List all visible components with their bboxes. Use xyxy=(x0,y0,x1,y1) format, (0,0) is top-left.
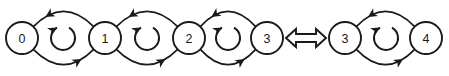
arrowhead-right-chain-3-to-4 xyxy=(393,55,406,68)
self-loop-arrowhead-right-chain-0 xyxy=(370,24,382,36)
node-label-3: 3 xyxy=(342,32,349,46)
node-label-0: 0 xyxy=(19,32,26,46)
node-right-chain-3[interactable]: 3 xyxy=(329,22,361,54)
arrowhead-left-chain-0-to-1 xyxy=(72,55,84,68)
edge-left-chain-1-to-0-top xyxy=(33,11,93,26)
arrowhead-left-chain-3-to-2 xyxy=(209,8,222,21)
node-label-1: 1 xyxy=(102,32,109,46)
equivalence-double-arrow xyxy=(286,29,326,47)
diagram-canvas: 012334 xyxy=(0,0,449,76)
arrowhead-left-chain-1-to-2 xyxy=(155,55,167,68)
arrowhead-right-chain-4-to-3 xyxy=(366,8,379,21)
node-label-3: 3 xyxy=(264,32,271,46)
state-transition-diagram: 012334 xyxy=(0,0,449,76)
node-right-chain-4[interactable]: 4 xyxy=(410,22,442,54)
edge-left-chain-2-to-1-top xyxy=(116,11,177,26)
arrowhead-left-chain-2-to-3 xyxy=(235,55,248,68)
edge-left-chain-1-to-2-bottom xyxy=(116,49,177,64)
edge-left-chain-0-to-1-bottom xyxy=(33,49,93,64)
self-loop-arrowhead-left-chain-2 xyxy=(212,24,224,36)
edge-right-chain-3-to-4-bottom xyxy=(356,49,414,64)
edge-right-chain-4-to-3-top xyxy=(356,11,414,26)
node-left-chain-0[interactable]: 0 xyxy=(6,22,38,54)
self-loop-arrowhead-left-chain-1 xyxy=(131,24,143,36)
node-left-chain-3[interactable]: 3 xyxy=(251,22,283,54)
self-loop-arrowhead-left-chain-0 xyxy=(47,24,59,36)
edge-left-chain-2-to-3-bottom xyxy=(200,49,255,64)
node-left-chain-2[interactable]: 2 xyxy=(173,22,205,54)
edge-left-chain-3-to-2-top xyxy=(200,11,255,26)
node-label-2: 2 xyxy=(186,32,193,46)
node-label-4: 4 xyxy=(423,32,430,46)
arrowhead-left-chain-2-to-1 xyxy=(126,8,138,21)
arrowhead-left-chain-1-to-0 xyxy=(43,8,55,21)
node-left-chain-1[interactable]: 1 xyxy=(89,22,121,54)
